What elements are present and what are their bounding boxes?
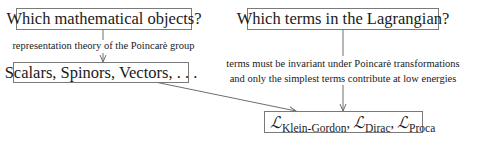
lagrangian-klein-gordon: ℒKlein-Gordon, xyxy=(270,113,353,132)
lagrangian-proca: ℒProca xyxy=(397,113,435,132)
subscript-proca: Proca xyxy=(409,122,435,134)
subscript-dirac: Dirac xyxy=(365,122,391,134)
invariance-label-line-2: and only the simplest terms contribute a… xyxy=(209,71,477,86)
script-l-symbol: ℒ xyxy=(270,113,282,132)
math-objects-question-box: Which mathematical objects? xyxy=(16,8,192,30)
subscript-klein-gordon: Klein-Gordon xyxy=(282,122,347,134)
invariance-label: terms must be invariant under Poincarè t… xyxy=(209,56,477,86)
lagrangians-box: ℒKlein-Gordon, ℒDirac, ℒProca xyxy=(264,111,423,133)
script-l-symbol: ℒ xyxy=(397,113,409,132)
field-types-box: Scalars, Spinors, Vectors, . . . xyxy=(13,62,189,83)
representation-theory-text: representation theory of the Poincarè gr… xyxy=(12,40,194,51)
field-types-text: Scalars, Spinors, Vectors, . . . xyxy=(5,63,198,83)
lagrangian-dirac: ℒDirac, xyxy=(353,113,397,132)
representation-theory-label: representation theory of the Poincarè gr… xyxy=(0,40,207,51)
separator: , xyxy=(347,116,351,131)
lagrangian-question-box: Which terms in the Lagrangian? xyxy=(247,8,439,30)
separator: , xyxy=(391,116,395,131)
script-l-symbol: ℒ xyxy=(353,113,365,132)
invariance-label-line-1: terms must be invariant under Poincarè t… xyxy=(209,56,477,71)
arrow-to-lagrangians-diagonal xyxy=(155,82,296,111)
lagrangian-question-text: Which terms in the Lagrangian? xyxy=(237,9,450,29)
math-objects-question-text: Which mathematical objects? xyxy=(6,9,201,29)
